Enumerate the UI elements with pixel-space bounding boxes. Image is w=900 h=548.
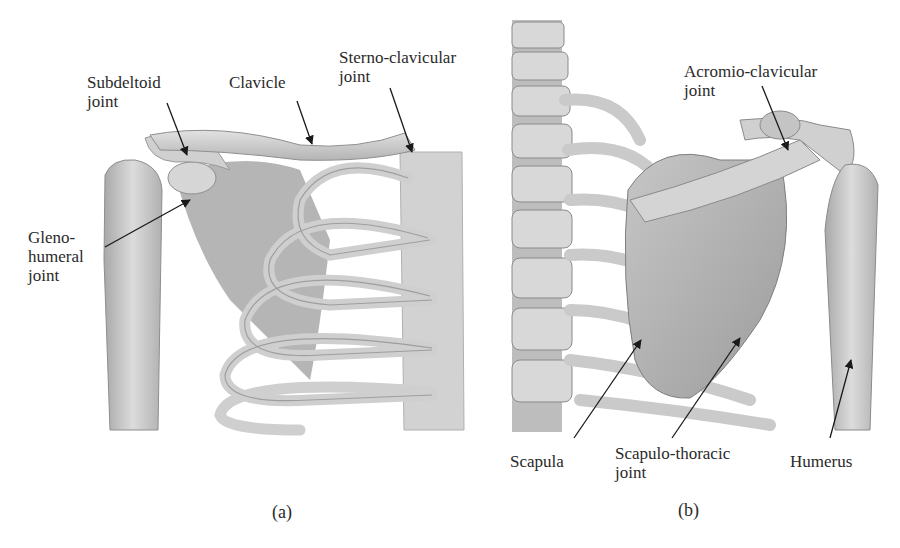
caption-panel-b: (b) — [678, 500, 699, 521]
label-gleno-humeral-joint: Gleno- humeral joint — [28, 228, 84, 285]
arrow-scapula — [574, 340, 641, 438]
label-acromio-clavicular-joint: Acromio-clavicular joint — [684, 62, 817, 100]
label-sterno-clavicular-joint: Sterno-clavicular joint — [339, 48, 456, 86]
label-clavicle: Clavicle — [229, 73, 286, 92]
caption-panel-a: (a) — [272, 502, 292, 523]
label-scapulo-thoracic-joint: Scapulo-thoracic joint — [615, 444, 730, 482]
label-subdeltoid-joint: Subdeltoid joint — [87, 73, 161, 111]
arrow-clavicle — [297, 101, 312, 144]
label-humerus: Humerus — [790, 452, 852, 471]
label-scapula: Scapula — [510, 452, 564, 471]
humerus-a — [104, 160, 162, 430]
panel-a-illustration — [104, 130, 464, 430]
humerus-b — [825, 164, 878, 430]
